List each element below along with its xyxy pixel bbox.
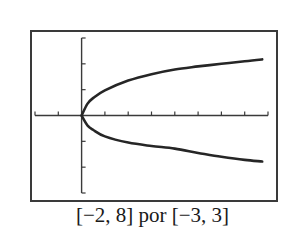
plot-area bbox=[0, 0, 283, 231]
upper-branch-curve bbox=[82, 59, 263, 115]
lower-branch-curve bbox=[82, 116, 263, 162]
axes bbox=[35, 38, 268, 193]
curves bbox=[82, 59, 263, 161]
window-caption: [−2, 8] por [−3, 3] bbox=[0, 203, 283, 227]
